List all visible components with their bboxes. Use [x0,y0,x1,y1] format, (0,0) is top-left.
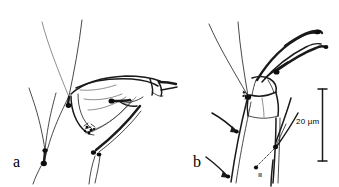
scale-bar-label: 20 µm [296,117,319,126]
seta-a-dorsal-knob [66,103,72,108]
segment-b-mid-right [276,93,278,116]
seta-a-upper-right [69,20,82,96]
claw-b-tip-knob-upper [315,30,320,34]
seta-a-dorsal-stem [68,97,69,104]
claw-b-tip-knob-lower [324,45,329,49]
segment-b-joint-lower [250,92,276,96]
seta-b-left-upper-knob [234,130,238,134]
segment-b-mid-fold [262,98,264,117]
line-drawing-canvas: .ln { fill: none; stroke: #1a1a1a; strok… [0,0,339,187]
segment-a-fold-2 [84,94,122,100]
seta-a-lower-right-knob-2 [97,152,102,156]
claw-b-outer-edge [257,33,317,80]
segment-a-distal-tip-lower [161,87,177,90]
solenidion-b-tip-bead [254,165,258,169]
seta-a-basal-knob-lower [41,161,47,167]
segment-b-mid-bottom [249,116,278,118]
segment-b-joint-inner [252,80,256,95]
seta-a-lateral-inner [45,93,56,150]
seta-a-lower-right-knob-1 [91,150,96,155]
limb-b-right-shaft [273,118,276,183]
seta-a-mid-stem [113,100,130,101]
limb-b-left-shaft [231,100,247,182]
figure-plate: .ln { fill: none; stroke: #1a1a1a; strok… [0,0,339,187]
claw-b-basal-knob [274,69,280,74]
seta-b-upper-middle [238,22,248,96]
seta-b-right-insertion-knob [273,145,278,149]
segment-a-fold-3 [88,97,126,110]
seta-a-upper-left [42,22,69,97]
seta-a-basal-tail [33,166,41,184]
segment-a-distal-joint-2 [158,81,162,96]
setal-cluster-a [84,123,96,135]
seta-b-left-lower-knob [226,175,230,179]
seta-a-lower-right-tail [89,156,95,184]
seta-a-basal-knob-upper [42,148,47,152]
solenidion-b [257,149,274,166]
panel-b-drawing: Ⅲ [206,22,328,186]
seta-a-lateral-outer [29,88,45,150]
panel-label-b: b [193,154,201,170]
limb-b-right-shaft-inner [278,118,280,183]
solenidion-b-label: Ⅲ [258,172,262,178]
segment-a-fold-1 [80,85,116,90]
segment-a-distal-tip [160,82,176,84]
panel-a-drawing [29,20,177,184]
segment-a-dorsal-inner [76,79,158,88]
seta-a-lower-right-inner [99,111,141,152]
seta-a-lower-right-tail-2 [95,156,100,183]
seta-a-mid-knob [109,98,115,103]
panel-label-a: a [13,154,20,170]
seta-a-lower-right-stem [96,106,140,150]
